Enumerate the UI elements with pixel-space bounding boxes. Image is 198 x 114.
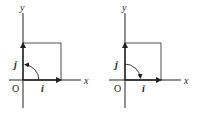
vector-j-label: j — [113, 59, 118, 70]
figure: y x O i j y x O i j — [0, 0, 198, 114]
origin-label: O — [12, 83, 19, 94]
y-axis-label: y — [121, 2, 127, 13]
square-outline — [23, 43, 61, 80]
rotation-arc-cw — [125, 64, 141, 78]
diagram-left: y x O i j — [9, 2, 89, 108]
vector-i-label: i — [142, 83, 145, 94]
rotation-arc-ccw — [25, 65, 39, 81]
vector-i-label: i — [41, 83, 44, 94]
vector-j-label: j — [12, 59, 17, 70]
y-axis-label: y — [19, 2, 25, 13]
x-axis-label: x — [83, 75, 89, 86]
x-axis-label: x — [183, 75, 189, 86]
square-outline — [125, 43, 161, 80]
diagram-right: y x O i j — [109, 2, 189, 108]
origin-label: O — [114, 83, 121, 94]
